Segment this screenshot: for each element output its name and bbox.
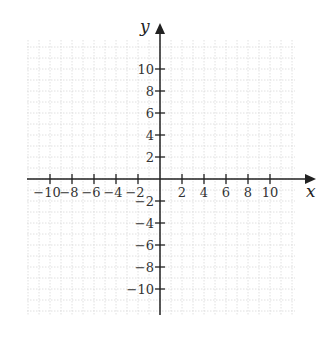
x-tick-label: 2 (178, 185, 186, 200)
x-tick-label: −8 (59, 185, 78, 200)
y-tick-label: 2 (146, 150, 154, 165)
x-axis-label: x (306, 181, 316, 201)
y-tick-label: −6 (135, 238, 154, 253)
y-tick-label: −10 (127, 282, 154, 297)
grid (27, 40, 295, 315)
y-axis-label: y (139, 16, 150, 36)
x-tick-label: −4 (103, 185, 122, 200)
x-tick-label: −10 (33, 185, 60, 200)
y-tick-label: −2 (135, 194, 154, 209)
x-tick-label: 10 (262, 185, 279, 200)
y-tick-label: 10 (137, 62, 154, 77)
coordinate-plane: −10−8−6−4−2246810 108642−2−4−6−8−10 x y (0, 0, 329, 353)
y-axis-arrow-icon (155, 23, 165, 34)
x-tick-label: 8 (244, 185, 252, 200)
y-axis (155, 23, 165, 315)
y-tick-label: 6 (146, 106, 154, 121)
x-axis (27, 174, 316, 184)
x-tick-label: 4 (200, 185, 208, 200)
y-tick-label: −4 (135, 216, 154, 231)
y-tick-label: 8 (146, 84, 154, 99)
x-tick-label: −6 (81, 185, 100, 200)
y-tick-label: −8 (135, 260, 154, 275)
x-ticks: −10−8−6−4−2246810 (33, 174, 278, 200)
x-tick-label: 6 (222, 185, 230, 200)
y-tick-label: 4 (146, 128, 154, 143)
